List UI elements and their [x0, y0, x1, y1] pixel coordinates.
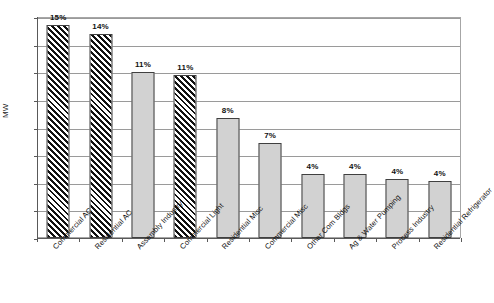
x-tick-mark	[37, 238, 38, 242]
bar-data-label: 14%	[92, 22, 109, 31]
bar-data-label: 4%	[307, 162, 319, 171]
x-tick-mark	[249, 238, 250, 242]
bar[interactable]	[131, 72, 154, 238]
bar-slot: 15%	[37, 17, 79, 238]
x-tick-mark	[122, 238, 123, 242]
bar-slot: 8%	[207, 17, 249, 238]
x-tick-mark	[164, 238, 165, 242]
bar-data-label: 11%	[135, 60, 151, 69]
bar-data-label: 7%	[264, 131, 276, 140]
x-tick-mark	[79, 238, 80, 242]
x-tick-mark	[461, 238, 462, 242]
bars-group: 15%14%11%11%8%7%4%4%4%4%	[37, 17, 461, 238]
bar-slot: 14%	[79, 17, 121, 238]
bar-slot: 4%	[291, 17, 333, 238]
bar[interactable]	[259, 143, 282, 238]
bar-data-label: 4%	[434, 169, 446, 178]
bar-data-label: 4%	[349, 162, 361, 171]
x-tick-mark	[376, 238, 377, 242]
bar[interactable]	[89, 34, 112, 238]
x-tick-mark	[291, 238, 292, 242]
x-tick-mark	[207, 238, 208, 242]
bar[interactable]	[216, 118, 239, 238]
bar-data-label: 15%	[50, 13, 67, 22]
bar-data-label: 11%	[177, 63, 193, 72]
bar-data-label: 4%	[391, 167, 403, 176]
bar-slot: 4%	[419, 17, 461, 238]
bar-slot: 4%	[334, 17, 376, 238]
x-tick-mark	[419, 238, 420, 242]
bar[interactable]	[47, 25, 70, 238]
bar-slot: 7%	[249, 17, 291, 238]
bar[interactable]	[174, 75, 197, 238]
x-tick-mark	[334, 238, 335, 242]
y-axis-title: MW	[1, 103, 10, 118]
bar-slot: 11%	[122, 17, 164, 238]
bar-data-label: 8%	[222, 106, 234, 115]
